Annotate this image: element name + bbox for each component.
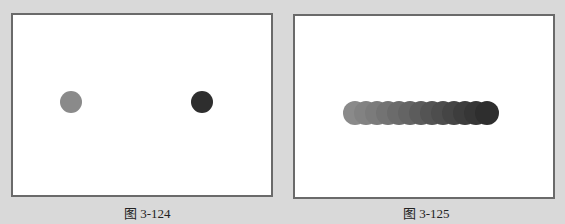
figure-3-125-canvas xyxy=(293,14,555,199)
blend-circle-strip xyxy=(343,101,499,125)
dark-circle xyxy=(191,91,213,113)
gray-circle xyxy=(60,91,82,113)
figure-caption-3-124: 图 3-124 xyxy=(124,203,171,222)
figure-caption-3-125: 图 3-125 xyxy=(403,203,450,222)
figure-3-124-canvas xyxy=(11,13,273,197)
blend-step-circle xyxy=(475,101,499,125)
